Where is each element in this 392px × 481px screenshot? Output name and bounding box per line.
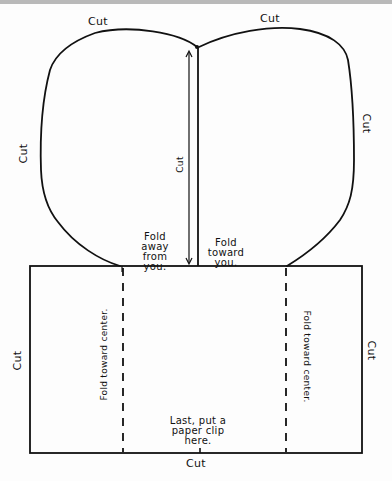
- right-lobe-top-cut-label: Cut: [260, 13, 280, 24]
- right-lobe-outline: [199, 28, 354, 266]
- template-drawing: [0, 0, 392, 481]
- rect-right-cut-label: Cut: [366, 341, 377, 361]
- left-lobe-top-cut-label: Cut: [88, 16, 108, 27]
- left-lobe-side-cut-label: Cut: [18, 144, 29, 164]
- left-fold-center-label: Fold toward center.: [100, 308, 109, 400]
- paper-clip-note: Last, put a paper clip here.: [148, 416, 248, 446]
- left-lobe-outline: [41, 29, 197, 266]
- center-cut-label: Cut: [176, 156, 185, 172]
- fold-away-label: Fold away from you.: [135, 232, 175, 272]
- rect-bottom-cut-label: Cut: [186, 458, 206, 469]
- right-lobe-side-cut-label: Cut: [361, 114, 372, 134]
- rect-left-cut-label: Cut: [12, 351, 23, 371]
- fold-toward-label: Fold toward you.: [204, 238, 248, 268]
- right-fold-center-label: Fold toward center.: [302, 310, 311, 402]
